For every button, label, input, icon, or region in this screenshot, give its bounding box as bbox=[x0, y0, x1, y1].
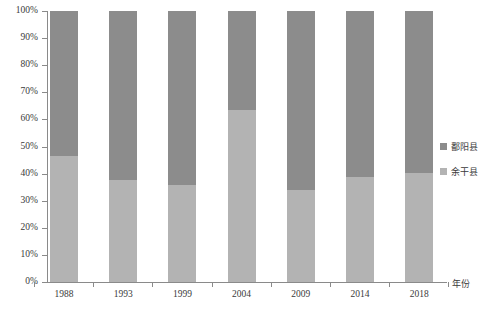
legend-swatch-icon bbox=[440, 168, 447, 175]
x-axis-tick bbox=[389, 282, 390, 287]
x-axis-line bbox=[47, 282, 447, 283]
stacked-bar-chart: 0%10%20%30%40%50%60%70%80%90%100% 198819… bbox=[0, 0, 489, 310]
x-axis-tick-label: 1988 bbox=[44, 289, 84, 299]
x-axis-tick-label: 1993 bbox=[103, 289, 143, 299]
bar-stack bbox=[346, 11, 374, 282]
y-axis-tick-label: 60% bbox=[21, 113, 38, 123]
y-axis-tick-label: 30% bbox=[21, 195, 38, 205]
bar-segment-yuganxian bbox=[346, 177, 374, 282]
bar-segment-yuganxian bbox=[168, 185, 196, 282]
bar-segment-poyangxian bbox=[228, 11, 256, 110]
bar-segment-yuganxian bbox=[109, 180, 137, 282]
y-axis-tick-label: 10% bbox=[21, 249, 38, 259]
bar-segment-poyangxian bbox=[50, 11, 78, 156]
bar-segment-yuganxian bbox=[405, 173, 433, 282]
bar-stack bbox=[405, 11, 433, 282]
y-axis-tick-label: 70% bbox=[21, 86, 38, 96]
y-axis-tick-label: 40% bbox=[21, 168, 38, 178]
x-axis-tick-label: 2009 bbox=[281, 289, 321, 299]
x-axis-tick bbox=[271, 282, 272, 287]
bar-segment-poyangxian bbox=[346, 11, 374, 177]
bar-segment-yuganxian bbox=[287, 190, 315, 282]
y-axis-tick-label: 80% bbox=[21, 59, 38, 69]
y-axis-tick-label: 100% bbox=[16, 5, 38, 15]
x-axis-tick-label: 1999 bbox=[162, 289, 202, 299]
legend-swatch-icon bbox=[440, 143, 447, 150]
legend-item-label: 鄱阳县 bbox=[451, 140, 478, 153]
y-axis-tick-label: 90% bbox=[21, 32, 38, 42]
y-axis-tick bbox=[42, 282, 48, 283]
x-axis-tick bbox=[152, 282, 153, 287]
bar-segment-poyangxian bbox=[109, 11, 137, 180]
x-axis-tick-label: 2014 bbox=[340, 289, 380, 299]
legend-item[interactable]: 余干县 bbox=[440, 165, 489, 178]
plot-area bbox=[48, 11, 440, 282]
y-axis-tick-label: 0% bbox=[25, 276, 38, 286]
x-axis-tick-label: 2018 bbox=[399, 289, 439, 299]
x-axis-tick-label: 2004 bbox=[222, 289, 262, 299]
bar-segment-poyangxian bbox=[405, 11, 433, 173]
x-axis-tick bbox=[448, 282, 449, 287]
x-axis-tick bbox=[330, 282, 331, 287]
bar-stack bbox=[228, 11, 256, 282]
x-axis-tick bbox=[212, 282, 213, 287]
bar-stack bbox=[109, 11, 137, 282]
bar-stack bbox=[168, 11, 196, 282]
bar-segment-yuganxian bbox=[228, 110, 256, 282]
bar-stack bbox=[287, 11, 315, 282]
x-axis-tick bbox=[93, 282, 94, 287]
legend-item[interactable]: 鄱阳县 bbox=[440, 140, 489, 153]
bar-segment-poyangxian bbox=[287, 11, 315, 190]
bar-segment-poyangxian bbox=[168, 11, 196, 185]
bar-stack bbox=[50, 11, 78, 282]
y-axis-tick-label: 50% bbox=[21, 141, 38, 151]
bar-segment-yuganxian bbox=[50, 156, 78, 282]
chart-legend: 鄱阳县余干县 bbox=[440, 140, 489, 190]
y-axis-tick-label: 20% bbox=[21, 222, 38, 232]
legend-item-label: 余干县 bbox=[451, 165, 478, 178]
x-axis-title: 年份 bbox=[452, 277, 470, 290]
x-axis-tick bbox=[34, 282, 35, 287]
